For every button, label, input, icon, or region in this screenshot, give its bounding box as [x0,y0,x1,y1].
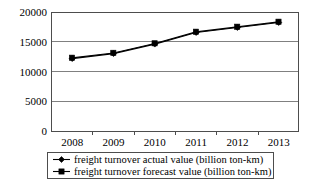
line-chart: 20000 15000 10000 5000 0 [0,0,311,190]
x-tick-label-2011: 2011 [185,136,207,148]
y-tick-label-0: 0 [42,125,48,137]
legend-label-actual: freight turnover actual value (billion t… [74,154,264,166]
y-tick-label-10000: 10000 [20,66,48,78]
legend-label-forecast: freight turnover forecast value (billion… [74,166,272,178]
x-tick-label-2012: 2012 [226,136,248,148]
y-tick-label-20000: 20000 [20,6,48,18]
x-tick-label-2008: 2008 [61,136,84,148]
legend-item-actual[interactable]: freight turnover actual value (billion t… [53,154,264,166]
x-tick-label-2009: 2009 [103,136,126,148]
x-tick-label-2013: 2013 [268,136,291,148]
chart-legend: freight turnover actual value (billion t… [48,153,274,179]
legend-item-forecast[interactable]: freight turnover forecast value (billion… [53,166,272,178]
y-tick-label-5000: 5000 [25,95,48,107]
square-marker-icon [59,169,64,174]
chart-canvas: 20000 15000 10000 5000 0 [0,0,311,190]
x-tick-label-2010: 2010 [144,136,167,148]
y-tick-label-15000: 15000 [20,36,48,48]
